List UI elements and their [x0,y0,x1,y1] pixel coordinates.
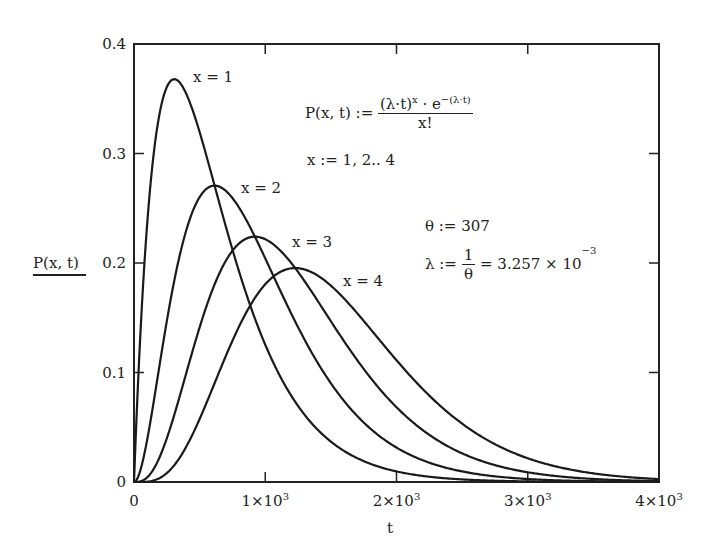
lambda-fraction: 1 θ [462,246,476,283]
theta-definition: θ := 307 [425,217,490,235]
x-axis-label: t [387,519,393,537]
y-tick-label: 0.4 [102,35,126,53]
formula-definition: P(x, t) := (λ·t)x · e−(λ·t) x! [305,94,473,132]
formula-lhs: P(x, t) := [305,104,373,122]
y-tick-label: 0.3 [102,145,126,163]
formula-denominator: x! [378,114,473,132]
curve-label-x1: x = 1 [193,68,233,86]
x-tick-label: 3×103 [504,491,552,510]
lambda-definition: λ := 1 θ = 3.257 × 10−3 [425,245,596,283]
formula-numerator: (λ·t)x · e−(λ·t) [378,94,473,114]
x-tick-label: 2×103 [373,491,421,510]
curve-label-x3: x = 3 [292,233,332,251]
x-tick-label: 0 [129,492,139,510]
formula-fraction: (λ·t)x · e−(λ·t) x! [378,94,473,132]
x-tick-label: 4×103 [635,491,683,510]
curve-2 [134,186,659,482]
chart-canvas: 01×1032×1033×1034×10300.10.20.30.4 x = 1… [0,0,721,557]
x-range-definition: x := 1, 2.. 4 [307,151,395,169]
y-tick-label: 0.2 [102,254,126,272]
y-tick-label: 0 [116,473,126,491]
y-tick-label: 0.1 [102,364,126,382]
y-axis-label: P(x, t) [33,254,79,272]
curve-label-x2: x = 2 [241,179,281,197]
curve-label-x4: x = 4 [343,272,383,290]
x-tick-label: 1×103 [241,491,289,510]
curve-4 [134,268,659,482]
